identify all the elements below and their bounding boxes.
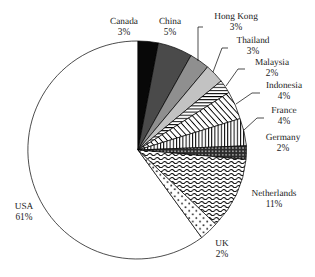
label-malaysia-name: Malaysia: [255, 58, 289, 68]
label-canada-pct: 3%: [118, 27, 131, 37]
label-germany-pct: 2%: [277, 143, 290, 153]
label-thailand-pct: 3%: [247, 46, 260, 56]
leader-line-indonesia: [236, 93, 260, 104]
label-canada-name: Canada: [110, 17, 138, 27]
pie-chart-figure: Canada 3% China 5% Hong Kong 3% Thailand…: [0, 0, 315, 277]
leader-line-malaysia: [226, 69, 245, 86]
leader-line-hong-kong: [198, 27, 203, 61]
label-netherlands-name: Netherlands: [252, 189, 297, 199]
label-usa-name: USA: [15, 202, 34, 212]
label-uk-name: UK: [215, 239, 229, 249]
label-uk-pct: 2%: [216, 249, 229, 259]
pie-chart-canvas: Canada 3% China 5% Hong Kong 3% Thailand…: [0, 0, 315, 277]
label-netherlands-pct: 11%: [266, 199, 283, 209]
label-france-name: France: [271, 106, 296, 116]
pie-slices-group: [28, 41, 247, 259]
label-china-name: China: [159, 17, 181, 27]
label-indonesia-pct: 4%: [278, 91, 291, 101]
label-china-pct: 5%: [164, 27, 177, 37]
label-france-pct: 4%: [278, 116, 291, 126]
label-usa-pct: 61%: [15, 212, 32, 222]
label-hong-kong-name: Hong Kong: [214, 12, 258, 22]
label-malaysia-pct: 2%: [266, 68, 279, 78]
label-thailand-name: Thailand: [236, 36, 269, 46]
label-indonesia-name: Indonesia: [266, 81, 302, 91]
label-hong-kong-pct: 3%: [230, 22, 243, 32]
leader-line-france: [244, 118, 264, 130]
leader-line-thailand: [213, 48, 228, 72]
label-germany-name: Germany: [266, 133, 301, 143]
